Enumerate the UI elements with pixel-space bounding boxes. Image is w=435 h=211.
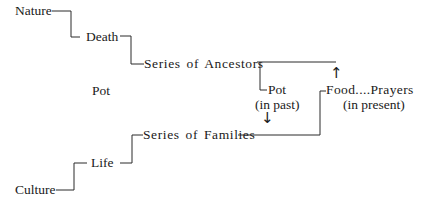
arrow-down-icon: ↓	[261, 111, 274, 126]
edge-nature-death	[52, 11, 80, 37]
node-series-of-families: Series of Families	[143, 128, 255, 142]
node-food-prayers: Food....Prayers	[326, 83, 414, 97]
node-pot-past: Pot	[268, 83, 286, 97]
edge-culture-life	[56, 163, 87, 190]
arrow-up-icon: ↑	[330, 66, 343, 81]
edge-death-ancestors	[120, 36, 144, 64]
node-food-prayers-note: (in present)	[343, 98, 405, 112]
edge-life-families	[120, 135, 143, 163]
node-life: Life	[91, 156, 114, 170]
node-death: Death	[86, 30, 118, 44]
node-series-of-ancestors: Series of Ancestors	[144, 57, 264, 71]
node-culture: Culture	[15, 183, 56, 197]
node-nature: Nature	[15, 4, 52, 18]
node-pot: Pot	[92, 84, 110, 98]
